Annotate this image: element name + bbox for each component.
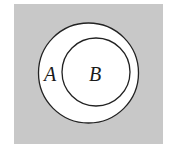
set-a-label: A (42, 63, 57, 85)
venn-diagram: A B (0, 0, 173, 153)
set-b-label: B (89, 63, 101, 85)
